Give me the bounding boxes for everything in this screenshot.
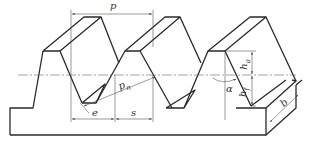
label-s: s	[131, 108, 136, 118]
gear-rack-diagram	[0, 0, 310, 150]
label-alpha: α	[226, 84, 233, 94]
label-hf: hf	[238, 88, 251, 97]
label-ha: ha	[239, 59, 252, 70]
pitch-dimension	[71, 10, 153, 75]
label-ha-sub: a	[244, 59, 252, 63]
label-ha-main: h	[238, 63, 249, 69]
label-p: p	[110, 1, 116, 11]
tooth-1	[43, 17, 119, 103]
label-hf-sub: f	[243, 88, 251, 91]
label-e: e	[92, 108, 98, 118]
space-thickness-dimension	[71, 75, 153, 122]
label-hf-main: h	[237, 91, 248, 97]
rack-body	[10, 51, 302, 135]
